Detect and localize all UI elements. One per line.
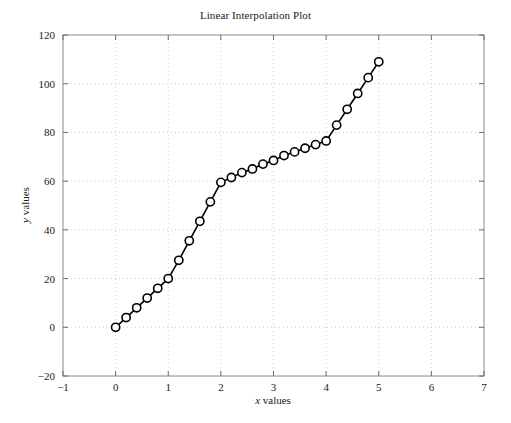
- x-tick-label: 0: [113, 381, 119, 393]
- data-point-marker: [364, 74, 372, 82]
- data-point-marker: [227, 173, 235, 181]
- data-point-marker: [154, 284, 162, 292]
- data-point-markers: [112, 58, 383, 332]
- data-point-marker: [122, 313, 130, 321]
- y-tick-label: 0: [50, 321, 56, 333]
- x-tick-label: 6: [429, 381, 435, 393]
- y-axis-title: y values: [19, 187, 31, 224]
- x-tick-label: 5: [376, 381, 382, 393]
- y-tick-label: 80: [44, 126, 56, 138]
- data-point-marker: [206, 198, 214, 206]
- data-point-marker: [280, 151, 288, 159]
- y-axis-title-word: values: [19, 187, 31, 218]
- data-point-marker: [143, 294, 151, 302]
- data-point-marker: [164, 274, 172, 282]
- x-tick-label: −1: [57, 381, 69, 393]
- data-point-marker: [196, 217, 204, 225]
- data-point-marker: [259, 160, 267, 168]
- data-point-marker: [333, 121, 341, 129]
- x-tick-label: 4: [323, 381, 329, 393]
- data-point-marker: [269, 156, 277, 164]
- x-axis-ticks: [63, 35, 484, 376]
- data-point-marker: [354, 89, 362, 97]
- data-point-marker: [217, 178, 225, 186]
- data-point-marker: [375, 58, 383, 66]
- plot-canvas: −101234567 −20020406080100120 x values y…: [0, 0, 511, 423]
- x-tick-label: 7: [481, 381, 487, 393]
- chart-figure: Linear Interpolation Plot −101234567 −20…: [0, 0, 511, 423]
- data-point-marker: [112, 323, 120, 331]
- data-point-marker: [290, 148, 298, 156]
- x-tick-label: 3: [271, 381, 277, 393]
- y-tick-label: −20: [38, 370, 56, 382]
- data-point-marker: [312, 141, 320, 149]
- axes-frame: [63, 35, 484, 376]
- y-axis-ticks: [63, 35, 484, 376]
- y-tick-label: 60: [44, 175, 56, 187]
- x-tick-labels: −101234567: [57, 381, 487, 393]
- plot-frame: [63, 35, 484, 376]
- data-point-marker: [301, 144, 309, 152]
- y-tick-labels: −20020406080100120: [38, 29, 56, 382]
- grid-lines: [63, 35, 484, 376]
- data-point-marker: [238, 169, 246, 177]
- y-tick-label: 40: [44, 224, 56, 236]
- data-point-marker: [175, 256, 183, 264]
- y-tick-label: 120: [39, 29, 56, 41]
- x-axis-title: x values: [254, 394, 291, 406]
- data-point-marker: [133, 304, 141, 312]
- x-tick-label: 2: [218, 381, 224, 393]
- y-tick-label: 100: [39, 78, 56, 90]
- data-point-marker: [322, 137, 330, 145]
- data-point-marker: [185, 237, 193, 245]
- data-point-marker: [343, 105, 351, 113]
- y-tick-label: 20: [44, 273, 56, 285]
- x-tick-label: 1: [166, 381, 172, 393]
- x-axis-title-word: values: [260, 394, 291, 406]
- data-point-marker: [248, 165, 256, 173]
